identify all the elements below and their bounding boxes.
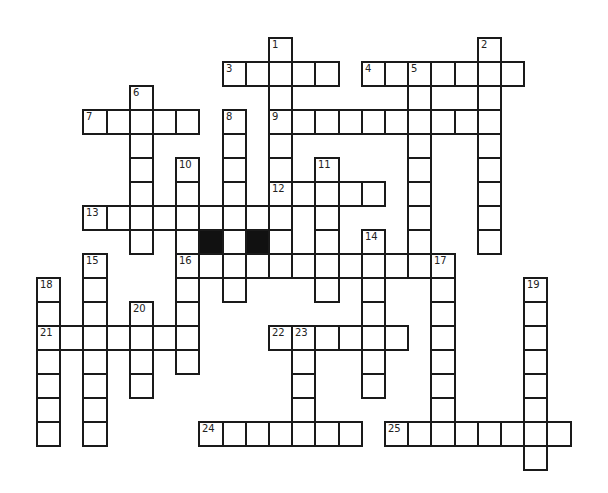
crossword-cell[interactable] xyxy=(175,181,200,207)
crossword-cell[interactable] xyxy=(175,325,200,351)
crossword-cell[interactable] xyxy=(361,373,386,399)
crossword-cell[interactable] xyxy=(314,421,340,447)
crossword-cell[interactable] xyxy=(129,325,154,351)
crossword-cell[interactable] xyxy=(430,109,456,135)
crossword-cell[interactable] xyxy=(222,277,247,303)
crossword-cell[interactable] xyxy=(291,109,316,135)
crossword-cell[interactable] xyxy=(36,301,61,327)
crossword-cell[interactable] xyxy=(129,133,154,159)
crossword-cell[interactable] xyxy=(361,253,386,279)
crossword-cell[interactable]: 10 xyxy=(175,157,200,183)
crossword-cell[interactable]: 12 xyxy=(268,181,293,207)
crossword-cell[interactable] xyxy=(361,325,386,351)
crossword-cell[interactable]: 7 xyxy=(82,109,108,135)
crossword-cell[interactable] xyxy=(477,85,502,111)
crossword-cell[interactable] xyxy=(222,205,247,231)
crossword-cell[interactable] xyxy=(477,133,502,159)
crossword-cell[interactable] xyxy=(268,85,293,111)
crossword-cell[interactable] xyxy=(523,349,548,375)
crossword-cell[interactable] xyxy=(430,277,456,303)
crossword-cell[interactable] xyxy=(222,253,247,279)
crossword-cell[interactable] xyxy=(222,181,247,207)
crossword-cell[interactable]: 19 xyxy=(523,277,548,303)
crossword-cell[interactable] xyxy=(361,277,386,303)
crossword-cell[interactable] xyxy=(384,325,409,351)
crossword-cell[interactable]: 18 xyxy=(36,277,61,303)
crossword-cell[interactable]: 17 xyxy=(430,253,456,279)
crossword-cell[interactable] xyxy=(430,301,456,327)
crossword-cell[interactable] xyxy=(291,397,316,423)
crossword-cell[interactable] xyxy=(361,301,386,327)
crossword-cell[interactable] xyxy=(314,109,340,135)
crossword-cell[interactable] xyxy=(129,349,154,375)
crossword-cell[interactable] xyxy=(291,181,316,207)
crossword-cell[interactable] xyxy=(338,253,363,279)
crossword-cell[interactable] xyxy=(129,229,154,255)
crossword-cell[interactable] xyxy=(523,445,548,471)
crossword-cell[interactable] xyxy=(361,181,386,207)
crossword-cell[interactable] xyxy=(268,205,293,231)
crossword-cell[interactable] xyxy=(477,61,502,87)
crossword-cell[interactable] xyxy=(500,421,525,447)
crossword-cell[interactable] xyxy=(129,205,154,231)
crossword-cell[interactable] xyxy=(59,325,84,351)
crossword-cell[interactable] xyxy=(407,253,432,279)
crossword-cell[interactable] xyxy=(129,373,154,399)
crossword-cell[interactable] xyxy=(314,325,340,351)
crossword-cell[interactable]: 1 xyxy=(268,37,293,63)
crossword-cell[interactable] xyxy=(198,253,224,279)
crossword-cell[interactable] xyxy=(82,349,108,375)
crossword-cell[interactable] xyxy=(384,253,409,279)
crossword-cell[interactable] xyxy=(430,349,456,375)
crossword-cell[interactable] xyxy=(268,253,293,279)
crossword-cell[interactable] xyxy=(407,157,432,183)
crossword-cell[interactable] xyxy=(454,61,479,87)
crossword-cell[interactable] xyxy=(291,61,316,87)
crossword-cell[interactable] xyxy=(430,61,456,87)
crossword-cell[interactable] xyxy=(82,325,108,351)
crossword-cell[interactable] xyxy=(314,277,340,303)
crossword-cell[interactable]: 20 xyxy=(129,301,154,327)
crossword-cell[interactable] xyxy=(291,373,316,399)
crossword-cell[interactable] xyxy=(106,205,131,231)
crossword-cell[interactable]: 24 xyxy=(198,421,224,447)
crossword-cell[interactable]: 8 xyxy=(222,109,247,135)
crossword-cell[interactable] xyxy=(407,181,432,207)
crossword-cell[interactable] xyxy=(546,421,572,447)
crossword-cell[interactable] xyxy=(175,301,200,327)
crossword-cell[interactable] xyxy=(338,325,363,351)
crossword-cell[interactable]: 4 xyxy=(361,61,386,87)
crossword-cell[interactable] xyxy=(106,109,131,135)
crossword-cell[interactable] xyxy=(82,277,108,303)
crossword-cell[interactable] xyxy=(82,301,108,327)
crossword-cell[interactable] xyxy=(407,85,432,111)
crossword-cell[interactable] xyxy=(198,205,224,231)
crossword-cell[interactable] xyxy=(523,373,548,399)
crossword-cell[interactable] xyxy=(175,277,200,303)
crossword-cell[interactable]: 21 xyxy=(36,325,61,351)
crossword-cell[interactable] xyxy=(245,61,270,87)
crossword-cell[interactable] xyxy=(152,109,177,135)
crossword-cell[interactable] xyxy=(523,301,548,327)
crossword-cell[interactable] xyxy=(338,109,363,135)
crossword-cell[interactable]: 3 xyxy=(222,61,247,87)
crossword-cell[interactable] xyxy=(36,373,61,399)
crossword-cell[interactable]: 9 xyxy=(268,109,293,135)
crossword-cell[interactable] xyxy=(129,109,154,135)
crossword-cell[interactable] xyxy=(454,421,479,447)
crossword-cell[interactable]: 2 xyxy=(477,37,502,63)
crossword-cell[interactable] xyxy=(175,349,200,375)
crossword-cell[interactable] xyxy=(222,421,247,447)
crossword-cell[interactable] xyxy=(268,157,293,183)
crossword-cell[interactable] xyxy=(338,181,363,207)
crossword-cell[interactable] xyxy=(106,325,131,351)
crossword-cell[interactable]: 25 xyxy=(384,421,409,447)
crossword-cell[interactable] xyxy=(175,229,200,255)
crossword-cell[interactable] xyxy=(407,229,432,255)
crossword-cell[interactable] xyxy=(222,133,247,159)
crossword-cell[interactable] xyxy=(175,109,200,135)
crossword-cell[interactable] xyxy=(268,61,293,87)
crossword-cell[interactable] xyxy=(407,421,432,447)
crossword-cell[interactable]: 5 xyxy=(407,61,432,87)
crossword-cell[interactable] xyxy=(82,373,108,399)
